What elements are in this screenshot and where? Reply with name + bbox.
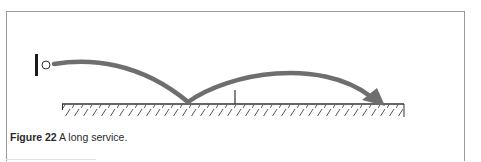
shuttle-icon (42, 61, 50, 69)
court-floor (62, 104, 404, 117)
racket-icon (35, 54, 38, 76)
service-flight-arrow (54, 62, 385, 106)
figure-caption-text: A long service. (57, 131, 128, 143)
figure-caption: Figure 22 A long service. (10, 131, 127, 143)
figure-label: Figure 22 (10, 131, 57, 143)
